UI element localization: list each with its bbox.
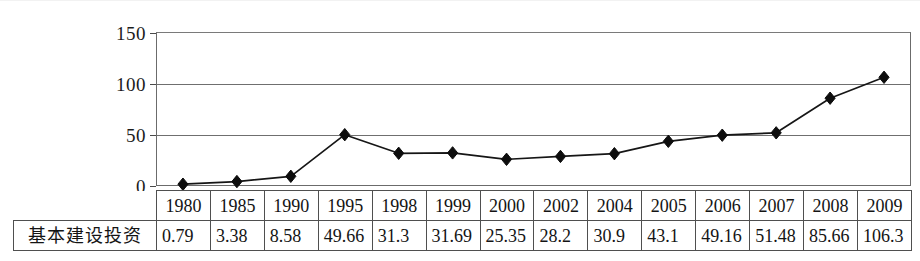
table-year-cell: 2008 bbox=[804, 191, 858, 221]
table-value-cell: 85.66 bbox=[804, 221, 858, 251]
table-year-cell: 2000 bbox=[480, 191, 534, 221]
table-row-values: 基本建设投资 0.793.388.5849.6631.331.6925.3528… bbox=[14, 221, 912, 251]
table-year-cell: 1998 bbox=[372, 191, 426, 221]
table-value-cell: 106.3 bbox=[857, 221, 911, 251]
data-point-marker bbox=[448, 147, 458, 159]
table-year-cell: 2006 bbox=[696, 191, 750, 221]
data-point-marker bbox=[232, 175, 242, 187]
table-year-cell: 2009 bbox=[857, 191, 911, 221]
data-point-marker bbox=[825, 92, 835, 104]
data-point-marker bbox=[663, 135, 673, 147]
table-value-cell: 0.79 bbox=[157, 221, 211, 251]
table-year-cell: 2004 bbox=[588, 191, 642, 221]
y-axis-label-50: 50 bbox=[58, 126, 146, 145]
table-value-cell: 43.1 bbox=[642, 221, 696, 251]
table-year-cell: 2007 bbox=[750, 191, 804, 221]
table-year-cell: 1985 bbox=[210, 191, 264, 221]
data-point-marker bbox=[178, 178, 188, 190]
table-value-cell: 30.9 bbox=[588, 221, 642, 251]
table-value-cell: 31.69 bbox=[426, 221, 480, 251]
y-axis-label-100: 100 bbox=[58, 75, 146, 94]
table-year-cell: 1990 bbox=[264, 191, 318, 221]
table-value-cell: 3.38 bbox=[210, 221, 264, 251]
line-chart: 150 100 50 0 bbox=[0, 0, 920, 196]
y-axis-label-150: 150 bbox=[58, 24, 146, 43]
table-year-cell: 2005 bbox=[642, 191, 696, 221]
table-value-cell: 8.58 bbox=[264, 221, 318, 251]
data-point-marker bbox=[394, 147, 404, 159]
data-table: 1980198519901995199819992000200220042005… bbox=[13, 190, 912, 251]
table-value-cell: 25.35 bbox=[480, 221, 534, 251]
table-year-cell: 2002 bbox=[534, 191, 588, 221]
data-series-line bbox=[157, 33, 910, 185]
table-row-label: 基本建设投资 bbox=[14, 221, 157, 251]
table-corner-blank bbox=[14, 191, 157, 221]
y-axis-tick-0 bbox=[150, 186, 156, 187]
data-point-marker bbox=[717, 129, 727, 141]
table-value-cell: 49.66 bbox=[318, 221, 372, 251]
table-value-cell: 28.2 bbox=[534, 221, 588, 251]
table-year-cell: 1999 bbox=[426, 191, 480, 221]
chart-figure: 150 100 50 0 198019851990199519981999200… bbox=[0, 0, 920, 261]
plot-area bbox=[156, 32, 911, 186]
table-year-cell: 1980 bbox=[157, 191, 211, 221]
table-year-cell: 1995 bbox=[318, 191, 372, 221]
data-point-marker bbox=[340, 128, 350, 140]
data-table-wrap: 1980198519901995199819992000200220042005… bbox=[13, 190, 911, 251]
table-row-years: 1980198519901995199819992000200220042005… bbox=[14, 191, 912, 221]
table-value-cell: 51.48 bbox=[750, 221, 804, 251]
data-point-marker bbox=[501, 153, 511, 165]
data-point-marker bbox=[286, 170, 296, 182]
data-point-marker bbox=[609, 147, 619, 159]
data-point-marker bbox=[771, 127, 781, 139]
table-value-cell: 31.3 bbox=[372, 221, 426, 251]
data-point-marker bbox=[555, 150, 565, 162]
table-value-cell: 49.16 bbox=[696, 221, 750, 251]
data-point-marker bbox=[879, 71, 889, 83]
